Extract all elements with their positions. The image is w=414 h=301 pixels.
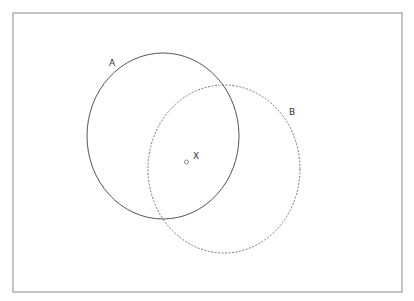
point-x-marker	[185, 160, 189, 164]
diagram-frame	[13, 13, 402, 292]
set-b-circle	[148, 85, 300, 253]
set-a-circle	[87, 53, 239, 219]
set-b-label: B	[289, 107, 295, 117]
point-x-label: X	[193, 151, 199, 161]
set-a-label: A	[109, 58, 116, 68]
venn-diagram: A B X	[0, 0, 414, 301]
